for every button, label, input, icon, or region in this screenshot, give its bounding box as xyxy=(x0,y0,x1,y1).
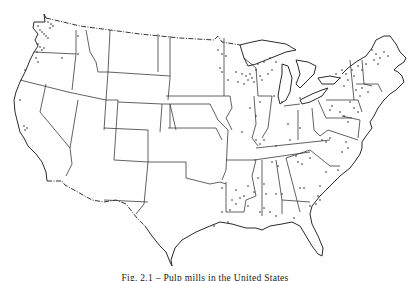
lake-huron xyxy=(296,60,316,88)
lake-michigan xyxy=(278,64,292,104)
figure-caption: Fig. 2.1 – Pulp mills in the United Stat… xyxy=(0,270,410,281)
mill-markers xyxy=(19,21,389,227)
mexico-border xyxy=(47,181,145,226)
us-map xyxy=(0,0,410,281)
lake-ontario xyxy=(318,76,340,84)
us-coastline xyxy=(14,14,406,266)
lake-erie xyxy=(300,88,328,104)
